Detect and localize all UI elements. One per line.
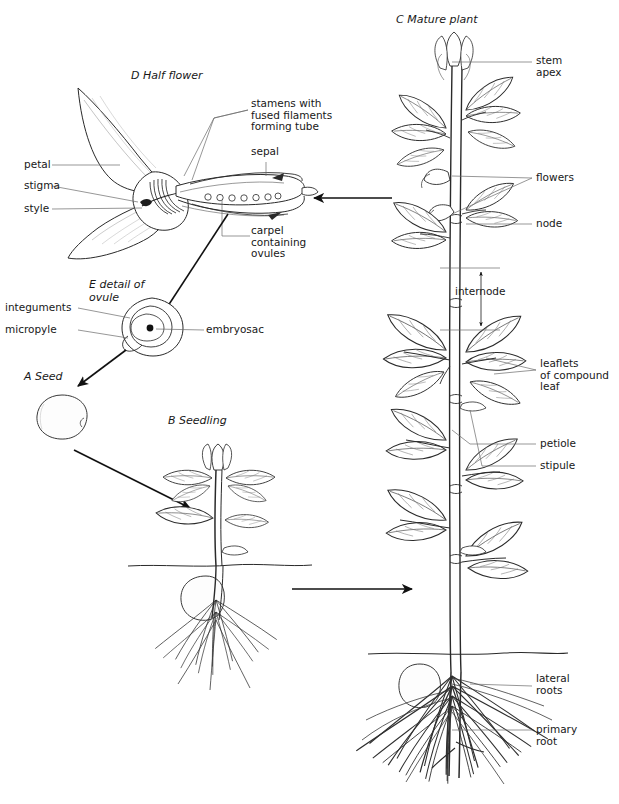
label-lateral-roots: lateral roots (536, 673, 570, 696)
label-flowers: flowers (536, 172, 574, 184)
label-embryosac: embryosac (206, 324, 264, 336)
panel-title-e: E detail of ovule (89, 279, 144, 304)
label-stem-apex: stem apex (536, 55, 562, 78)
arrow-ovule-to-seed (78, 350, 126, 386)
panel-title-c: C Mature plant (396, 14, 478, 27)
internode-bracket (440, 268, 500, 330)
label-integuments: integuments (5, 302, 71, 314)
diagram-canvas: D Half flower E detail of ovule A Seed B… (0, 0, 619, 804)
label-stigma: stigma (24, 180, 60, 192)
label-leaflets: leaflets of compound leaf (540, 358, 609, 393)
label-petiole: petiole (540, 438, 576, 450)
label-style: style (24, 203, 49, 215)
flower-cluster-upper (421, 169, 450, 188)
label-primary-root: primary root (536, 724, 577, 747)
label-stipule: stipule (540, 460, 575, 472)
panel-title-b: B Seedling (168, 415, 227, 428)
panel-title-d: D Half flower (131, 70, 203, 83)
soil-line-mature (368, 652, 568, 654)
stipule-shape (460, 402, 486, 411)
label-node: node (536, 218, 562, 230)
label-sepal: sepal (251, 146, 279, 158)
label-petal: petal (24, 159, 51, 171)
compound-leaf-labelled (382, 312, 451, 409)
seed-drawing (37, 395, 87, 439)
label-micropyle: micropyle (5, 324, 57, 336)
seedling-drawing (128, 444, 312, 690)
ovule-drawing (122, 298, 183, 356)
label-stamens: stamens with fused filaments forming tub… (251, 98, 332, 133)
label-internode: internode (455, 286, 506, 298)
label-carpel: carpel containing ovules (251, 225, 306, 260)
panel-title-a: A Seed (24, 371, 63, 384)
